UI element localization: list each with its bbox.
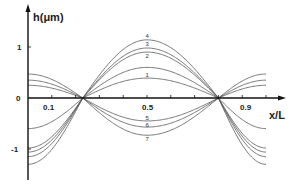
curve-4 <box>28 40 266 98</box>
curve-unlabeled <box>28 67 266 156</box>
y-axis-arrow-icon <box>26 4 31 12</box>
x-tick-label-0-1: 0.1 <box>43 103 55 112</box>
curve-label-2: 2 <box>146 53 150 59</box>
curve-label-1: 1 <box>146 72 150 78</box>
curve-label-4: 4 <box>146 33 150 39</box>
curve-label-3: 3 <box>146 41 150 47</box>
x-axis-label: x/L <box>269 109 285 121</box>
x-axis-arrow-icon <box>278 96 286 101</box>
y-tick-label-1: 1 <box>17 43 22 52</box>
y-axis-label: h(μm) <box>33 11 64 23</box>
y-tick-label-minus1: -1 <box>11 145 19 154</box>
curve-label-7: 7 <box>146 136 150 142</box>
x-tick-label-0-9: 0.9 <box>240 103 252 112</box>
x-tick-label-0-5: 0.5 <box>142 103 154 112</box>
curve-label-5: 5 <box>146 115 150 121</box>
line-chart: 1234567 h(μm) x/L 1 0 -1 0.1 0.5 0.9 <box>0 0 303 192</box>
y-tick-label-0: 0 <box>16 94 21 103</box>
curve-labels-group: 1234567 <box>146 33 150 142</box>
